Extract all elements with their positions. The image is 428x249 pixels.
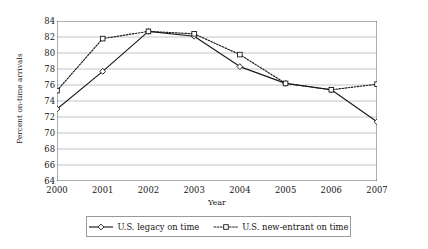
- y-tick-label: 70: [44, 129, 55, 137]
- x-tick-label: 2006: [321, 186, 342, 194]
- data-point-marker: [146, 29, 151, 34]
- x-tick-label: 2003: [183, 186, 204, 194]
- data-point-marker: [192, 32, 197, 37]
- legend-label: U.S. new-entrant on time: [242, 222, 348, 232]
- y-tick-label: 84: [44, 17, 55, 25]
- y-axis-title: Percent on-time arrivals: [15, 53, 24, 143]
- plot-svg: [57, 21, 377, 181]
- line-chart: Percent on-time arrivals 848280787674727…: [0, 0, 428, 249]
- y-tick-label: 78: [44, 65, 55, 73]
- data-point-marker: [329, 88, 334, 93]
- data-point-marker: [100, 36, 105, 41]
- data-point-marker: [375, 82, 377, 87]
- x-tick-label: 2001: [92, 186, 113, 194]
- y-tick-label: 82: [44, 33, 55, 41]
- square-marker: [213, 222, 239, 232]
- data-point-marker: [238, 52, 243, 57]
- x-tick-label: 2007: [366, 186, 387, 194]
- y-tick-label: 66: [44, 161, 55, 169]
- y-tick-label: 80: [44, 49, 55, 57]
- series-line-1: [57, 31, 377, 121]
- x-tick-label: 2004: [229, 186, 250, 194]
- y-tick-label: 72: [44, 113, 55, 121]
- legend-label: U.S. legacy on time: [117, 222, 199, 232]
- legend-item-1: U.S. legacy on time: [88, 222, 199, 232]
- x-tick-label: 2002: [138, 186, 159, 194]
- y-tick-label: 68: [44, 145, 55, 153]
- y-tick-label: 74: [44, 97, 55, 105]
- data-point-marker: [57, 88, 59, 93]
- x-tick-label: 2005: [275, 186, 296, 194]
- x-axis-title: Year: [57, 198, 377, 207]
- y-tick-label: 76: [44, 81, 55, 89]
- y-axis-tick-labels: 8482807876747270686664: [30, 21, 55, 181]
- diamond-marker: [88, 222, 114, 232]
- data-point-marker: [283, 81, 288, 86]
- chart-legend: U.S. legacy on timeU.S. new-entrant on t…: [86, 216, 351, 237]
- plot-area: [57, 21, 377, 181]
- x-tick-label: 2000: [46, 186, 67, 194]
- legend-item-2: U.S. new-entrant on time: [213, 222, 348, 232]
- y-axis-title-container: Percent on-time arrivals: [10, 18, 28, 178]
- y-tick-label: 64: [44, 177, 55, 185]
